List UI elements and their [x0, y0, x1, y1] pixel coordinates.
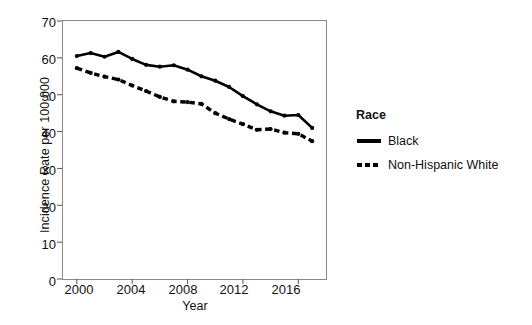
data-point	[102, 75, 106, 79]
data-point	[116, 78, 120, 82]
data-point	[144, 63, 148, 67]
data-point	[89, 71, 93, 75]
series-line-black	[77, 52, 312, 128]
data-point	[296, 113, 300, 117]
y-tick-label: 30	[16, 164, 56, 177]
data-point	[199, 74, 203, 78]
chart-figure: Incidence Rate per 100,000 70 60 50 40 3…	[0, 0, 532, 325]
y-axis-tick-labels: 70 60 50 40 30 20 10 0	[16, 0, 56, 325]
data-point	[130, 83, 134, 87]
data-point	[296, 132, 300, 136]
x-axis-title: Year	[62, 299, 328, 313]
y-tick-label: 70	[16, 16, 56, 29]
legend-title: Race	[356, 108, 526, 122]
data-point	[269, 127, 273, 131]
data-point	[282, 131, 286, 135]
data-point	[227, 85, 231, 89]
data-point	[213, 79, 217, 83]
legend-label: Non-Hispanic White	[388, 158, 498, 172]
data-point	[185, 100, 189, 104]
y-tick-label: 50	[16, 90, 56, 103]
legend-item-black[interactable]: Black	[356, 129, 526, 153]
legend-swatch-solid-icon	[356, 130, 382, 152]
plot-panel	[62, 20, 327, 280]
data-point	[227, 117, 231, 121]
legend: Race Black Non-Hispanic White	[356, 108, 526, 177]
data-point	[310, 139, 314, 143]
legend-label: Black	[388, 134, 419, 148]
data-point	[102, 55, 106, 59]
x-tick-label: 2000	[49, 283, 109, 296]
data-point	[310, 126, 314, 130]
data-point	[130, 57, 134, 61]
data-point	[199, 102, 203, 106]
x-tick-label: 2016	[256, 283, 316, 296]
data-point	[269, 109, 273, 113]
y-tick-label: 40	[16, 127, 56, 140]
y-tick-label: 20	[16, 201, 56, 214]
data-point	[255, 102, 259, 106]
data-point	[158, 95, 162, 99]
plot-area	[63, 21, 326, 279]
legend-item-non-hispanic-white[interactable]: Non-Hispanic White	[356, 153, 526, 177]
legend-swatch-dashed-icon	[356, 154, 382, 176]
data-point	[241, 94, 245, 98]
data-point	[185, 68, 189, 72]
y-tick-label: 10	[16, 238, 56, 251]
data-point	[241, 122, 245, 126]
data-point	[158, 65, 162, 69]
data-point	[89, 51, 93, 55]
data-point	[116, 50, 120, 54]
data-point	[172, 63, 176, 67]
data-point	[144, 89, 148, 93]
series-line-non-hispanic-white	[77, 68, 312, 141]
data-point	[75, 66, 79, 70]
data-point	[75, 54, 79, 58]
data-point	[172, 99, 176, 103]
data-point	[213, 111, 217, 115]
x-tick-label: 2012	[204, 283, 264, 296]
x-tick-label: 2004	[101, 283, 161, 296]
data-point	[282, 114, 286, 118]
y-tick-label: 60	[16, 53, 56, 66]
data-point	[255, 128, 259, 132]
